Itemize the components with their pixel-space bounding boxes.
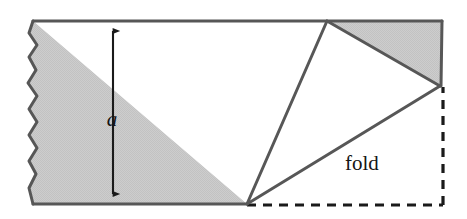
- fold-label: fold: [345, 151, 379, 175]
- width-label-a: a: [107, 107, 118, 131]
- strip-right-edge: [441, 21, 442, 86]
- folded-paper-diagram: a fold: [0, 0, 467, 219]
- figure-container: a fold: [0, 0, 467, 219]
